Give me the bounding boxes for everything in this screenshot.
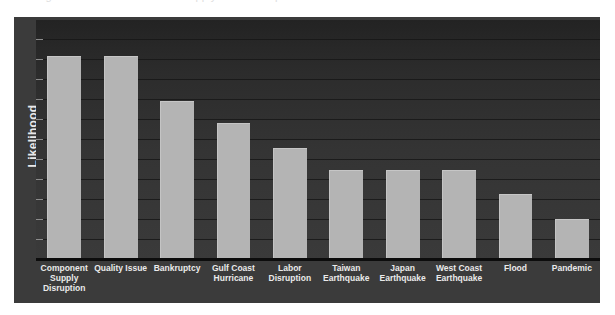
bar-slot (431, 20, 487, 259)
chart-panel: Likelihood (14, 17, 600, 303)
bar-series (36, 20, 600, 259)
bar[interactable] (442, 170, 476, 259)
figure-caption-strip: Figure: Relative likelihood of supply ch… (0, 0, 615, 12)
bar-slot (149, 20, 205, 259)
bar-slot (36, 20, 92, 259)
bar-slot (92, 20, 148, 259)
plot-region: Likelihood (14, 17, 600, 260)
x-axis-label: Component Supply Disruption (36, 263, 92, 303)
bar-slot (374, 20, 430, 259)
bar-slot (544, 20, 600, 259)
x-axis-label: Quality Issue (92, 263, 148, 303)
bar-slot (487, 20, 543, 259)
bar-slot (262, 20, 318, 259)
bar[interactable] (555, 219, 589, 260)
bar[interactable] (273, 148, 307, 259)
bar[interactable] (499, 194, 533, 259)
figure-caption-text: Figure: Relative likelihood of supply ch… (36, 0, 337, 2)
bar[interactable] (160, 101, 194, 259)
x-axis-label: West Coast Earthquake (431, 263, 487, 303)
bar-slot (318, 20, 374, 259)
x-axis-label: Gulf Coast Hurricane (205, 263, 261, 303)
x-axis-line (36, 258, 600, 261)
bar[interactable] (104, 56, 138, 259)
x-axis-label: Labor Disruption (262, 263, 318, 303)
x-axis-label: Bankruptcy (149, 263, 205, 303)
x-axis-labels: Component Supply Disruption Quality Issu… (36, 263, 600, 303)
x-axis-label: Taiwan Earthquake (318, 263, 374, 303)
bar[interactable] (329, 170, 363, 259)
bar[interactable] (47, 56, 81, 259)
x-axis-label: Pandemic (544, 263, 600, 303)
bar[interactable] (217, 123, 251, 259)
x-axis-label: Japan Earthquake (374, 263, 430, 303)
x-axis-label: Flood (487, 263, 543, 303)
bar-slot (205, 20, 261, 259)
bar[interactable] (386, 170, 420, 259)
